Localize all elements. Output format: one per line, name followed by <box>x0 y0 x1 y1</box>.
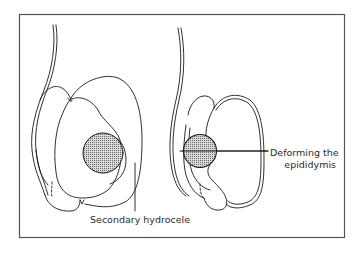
secondary-hydrocele-label: Secondary hydrocele <box>90 214 190 226</box>
right-testis-illustration <box>170 28 268 210</box>
figure-frame <box>20 15 345 238</box>
deforming-epididymis-label: Deforming the epididymis <box>270 147 336 171</box>
left-testis-illustration <box>32 25 142 211</box>
deforming-label-line1: Deforming the <box>270 147 336 159</box>
left-testicular-mass <box>83 133 123 173</box>
deforming-label-line2: epididymis <box>270 159 336 171</box>
